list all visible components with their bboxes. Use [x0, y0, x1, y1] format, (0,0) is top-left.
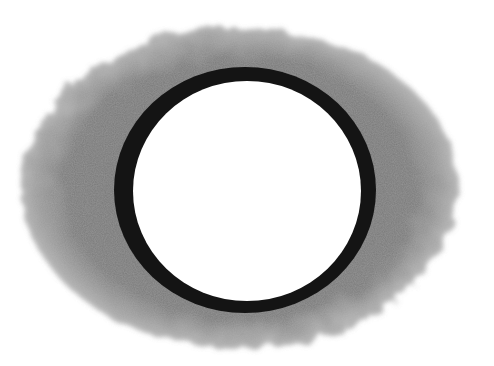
ring-sketch — [0, 0, 494, 366]
pencil-drawing — [0, 0, 494, 366]
white-hole — [133, 81, 361, 301]
